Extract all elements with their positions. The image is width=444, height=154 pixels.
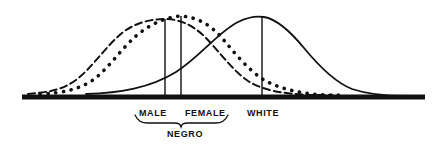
distribution-figure: MALE FEMALE WHITE NEGRO [0, 0, 444, 154]
curve-white [86, 17, 405, 96]
label-white: WHITE [247, 108, 279, 118]
label-female: FEMALE [185, 108, 226, 118]
curve-negro-female [40, 16, 340, 95]
label-male: MALE [139, 108, 167, 118]
distribution-plot [0, 0, 444, 154]
label-negro: NEGRO [167, 129, 203, 139]
